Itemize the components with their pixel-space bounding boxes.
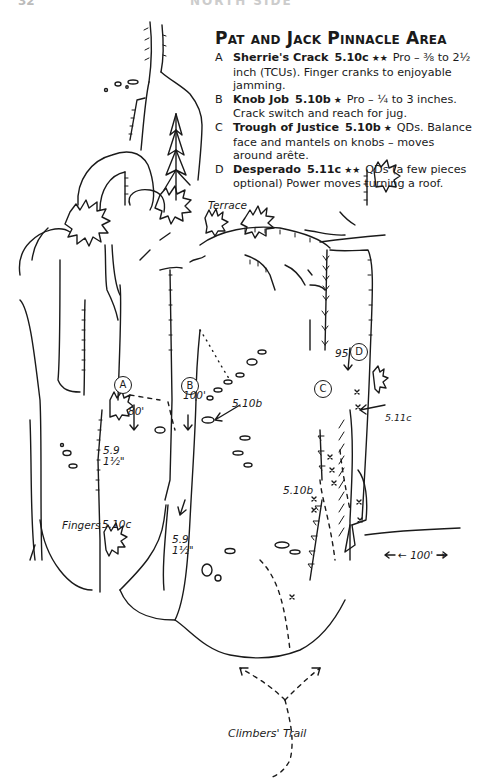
route-letter: A (215, 51, 233, 93)
route-entry-b: B Knob Job5.10b★Pro – ¼ to 3 inches. Cra… (215, 93, 477, 121)
route-marker-a: A (114, 376, 132, 394)
route-entry-c: C Trough of Justice5.10b★QDs. Balance fa… (215, 121, 477, 163)
climbers-trail-label: Climbers' Trail (228, 728, 306, 739)
route-lines (61, 330, 386, 778)
route-name: Desperado (233, 163, 301, 176)
star-rating-icon: ★★ (372, 53, 388, 63)
star-rating-icon: ★★ (344, 165, 360, 175)
route-entry-a: A Sherrie's Crack5.10c★★Pro – ⅜ to 2½ in… (215, 51, 477, 93)
route-d-length: 95' (335, 348, 351, 359)
area-title: Pat and Jack Pinnacle Area (215, 28, 477, 48)
route-grade: 5.11c (307, 163, 341, 176)
route-d-variation-grade: 5.11c (385, 412, 411, 423)
route-name: Knob Job (233, 93, 289, 106)
route-letter: D (215, 163, 233, 191)
route-c-variation-grade: 5.10b (283, 485, 313, 496)
star-rating-icon: ★ (334, 95, 342, 105)
distance-label: ← 100' → (398, 550, 445, 561)
fingers-label: Fingers (62, 520, 101, 531)
center-crack-size: 1½" (172, 545, 194, 556)
route-grade: 5.10b (295, 93, 331, 106)
route-name: Sherrie's Crack (233, 51, 328, 64)
route-legend: Pat and Jack Pinnacle Area A Sherrie's C… (215, 28, 477, 191)
rock-outline (20, 212, 460, 658)
route-grade: 5.10c (334, 51, 368, 64)
route-b-length: 100' (183, 390, 206, 401)
route-marker-d: D (350, 343, 368, 361)
route-b-variation-grade: 5.10b (232, 398, 262, 409)
route-letter: B (215, 93, 233, 121)
route-name: Trough of Justice (233, 121, 339, 134)
terrace-label: Terrace (208, 200, 247, 211)
distance-arrow-left (385, 552, 395, 558)
route-entry-d: D Desperado5.11c★★QDs (a few pieces opti… (215, 163, 477, 191)
fingers-grade: 5.10c (102, 519, 131, 530)
route-a-length: 80' (128, 406, 144, 417)
route-letter: C (215, 121, 233, 163)
star-rating-icon: ★ (384, 123, 392, 133)
pinnacle-drawing (19, 22, 202, 275)
route-grade: 5.10b (345, 121, 381, 134)
left-crack-size: 1½" (103, 456, 125, 467)
route-marker-c: C (314, 380, 332, 398)
